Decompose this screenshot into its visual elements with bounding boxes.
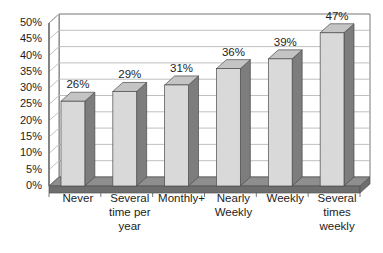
y-axis-tick-label: 25%	[20, 97, 42, 109]
x-axis-category-label: Monthly+	[158, 192, 205, 204]
category-label-line: Never	[63, 192, 94, 204]
bar-column	[165, 76, 199, 186]
y-axis-tick-label: 45%	[20, 32, 42, 44]
bar-column	[320, 24, 354, 186]
y-axis-tick-label: 0%	[26, 179, 42, 191]
y-axis-tick-label: 40%	[20, 49, 42, 61]
y-axis-tick-label: 20%	[20, 114, 42, 126]
y-axis-tick-label: 10%	[20, 146, 42, 158]
bar-value-label: 29%	[118, 68, 141, 80]
y-axis-tick-label: 50%	[20, 16, 42, 28]
y-axis-tick-label: 15%	[20, 130, 42, 142]
bar-value-label: 36%	[222, 46, 245, 58]
category-label-line: times	[323, 206, 351, 218]
category-label-line: year	[119, 220, 142, 232]
category-label-line: Weekly	[215, 206, 253, 218]
category-label-line: weekly	[319, 220, 355, 232]
bar-value-label: 39%	[274, 36, 297, 48]
y-axis-tick-label: 30%	[20, 81, 42, 93]
chart-container: 0%5%10%15%20%25%30%35%40%45%50% 26%29%31…	[0, 0, 383, 253]
bar-value-label: 26%	[66, 78, 89, 90]
x-axis-category-label: Severaltimesweekly	[318, 192, 357, 232]
category-label-line: Several	[318, 192, 357, 204]
category-label-line: Monthly+	[158, 192, 205, 204]
x-axis-category-label: Never	[63, 192, 94, 204]
bar-column	[268, 50, 302, 186]
category-label-line: Nearly	[217, 192, 250, 204]
x-axis-category-label: Weekly	[267, 192, 305, 204]
bar-value-label: 47%	[326, 10, 349, 22]
bar-chart-3d: 0%5%10%15%20%25%30%35%40%45%50% 26%29%31…	[0, 0, 383, 253]
bar-column	[216, 60, 250, 186]
category-label-line: time per	[109, 206, 151, 218]
y-axis-tick-label: 35%	[20, 65, 42, 77]
bar-column	[113, 82, 147, 186]
bar-value-label: 31%	[170, 62, 193, 74]
category-label-line: Several	[110, 192, 149, 204]
category-label-line: Weekly	[267, 192, 305, 204]
bar-column	[61, 92, 95, 186]
y-axis-tick-label: 5%	[26, 163, 42, 175]
